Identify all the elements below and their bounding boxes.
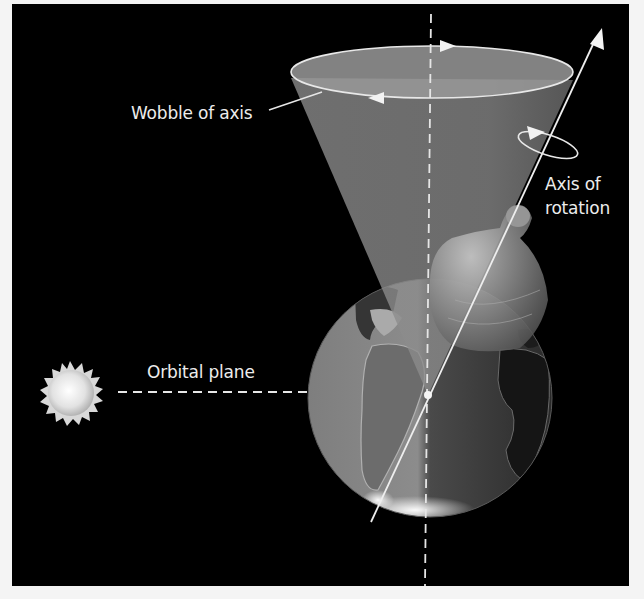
wobble-of-axis-label: Wobble of axis — [131, 101, 252, 125]
axis-of-rotation-label: Axis of rotation — [545, 172, 610, 220]
orbital-plane-label: Orbital plane — [147, 360, 255, 384]
axis-center-dot — [424, 391, 432, 399]
axis-label-line2: rotation — [545, 196, 610, 220]
precession-diagram — [0, 0, 644, 599]
figure-frame: Wobble of axis Axis of rotation Orbital … — [0, 0, 644, 599]
axis-label-line1: Axis of — [545, 172, 610, 196]
sun-icon — [40, 361, 103, 426]
